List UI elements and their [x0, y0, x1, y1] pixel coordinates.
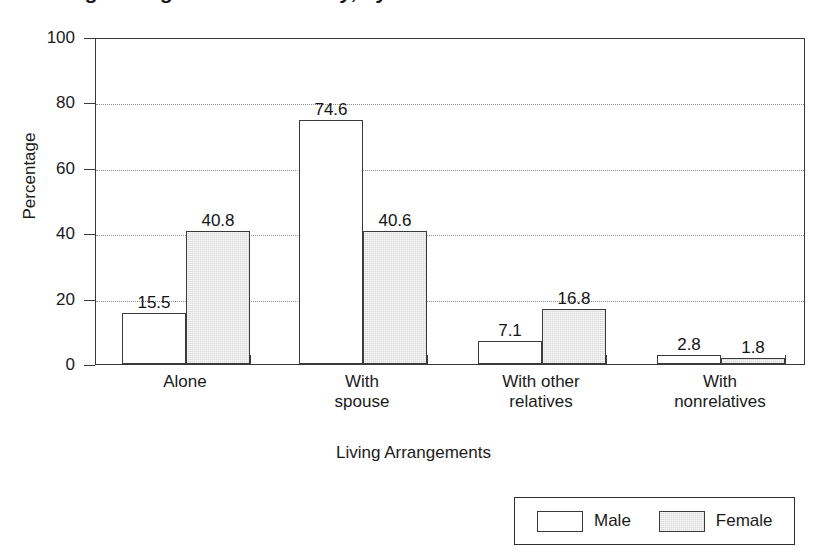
y-axis-tick-mark [84, 103, 95, 104]
y-axis-tick-mark [84, 169, 95, 170]
cropped-title-band: Living Arrangements of Elderly, by Sex [0, 0, 827, 11]
category-label-line: With [640, 372, 800, 392]
x-axis-category-label: Alone [105, 372, 265, 392]
category-label-line: relatives [461, 392, 621, 412]
bar-male: 15.5 [122, 313, 186, 364]
legend-swatch-male-icon [537, 511, 583, 532]
x-axis-title: Living Arrangements [0, 443, 827, 463]
x-axis-tick-mark [250, 355, 251, 364]
x-axis-tick-mark [606, 355, 607, 364]
category-label-line: With other [461, 372, 621, 392]
legend: Male Female [514, 497, 795, 545]
bar-value-label: 15.5 [137, 294, 170, 311]
bar-value-label: 40.6 [378, 212, 411, 229]
plot-area: 15.540.874.640.67.116.82.81.8 [95, 38, 805, 365]
bar-value-label: 74.6 [314, 101, 347, 118]
x-axis-tick-mark [478, 355, 479, 364]
x-axis-tick-mark [657, 355, 658, 364]
y-axis-tick-label: 100 [15, 29, 75, 46]
legend-label-female: Female [716, 511, 773, 531]
bar-value-label: 2.8 [677, 336, 701, 353]
bar-female: 40.6 [363, 231, 427, 364]
y-axis-tick-mark [84, 38, 95, 39]
bar-value-label: 1.8 [741, 339, 765, 356]
y-axis-tick-label: 40 [15, 225, 75, 242]
bar-value-label: 7.1 [498, 322, 522, 339]
legend-label-male: Male [594, 511, 631, 531]
x-axis-category-label: With otherrelatives [461, 372, 621, 412]
bar-male: 2.8 [657, 355, 721, 364]
y-axis-tick-label: 60 [15, 160, 75, 177]
legend-swatch-female-icon [659, 511, 705, 532]
gridline [96, 170, 804, 171]
x-axis-tick-mark [122, 355, 123, 364]
legend-item-female: Female [659, 511, 773, 532]
category-label-line: Alone [105, 372, 265, 392]
category-label-line: With [282, 372, 442, 392]
x-axis-tick-mark [785, 355, 786, 364]
y-axis-tick-mark [84, 234, 95, 235]
bar-value-label: 16.8 [557, 290, 590, 307]
y-axis-tick-mark [84, 365, 95, 366]
legend-item-male: Male [537, 511, 631, 532]
y-axis-tick-label: 0 [15, 356, 75, 373]
y-axis-tick-label: 20 [15, 291, 75, 308]
bar-female: 40.8 [186, 231, 250, 364]
x-axis-category-label: Withspouse [282, 372, 442, 412]
category-label-line: spouse [282, 392, 442, 412]
y-axis-tick-mark [84, 300, 95, 301]
plot-inner: 15.540.874.640.67.116.82.81.8 [96, 39, 804, 364]
chart-title-fragment: Living Arrangements of Elderly, by Sex [36, 0, 433, 4]
bar-male: 7.1 [478, 341, 542, 364]
gridline [96, 104, 804, 105]
y-axis-tick-label: 80 [15, 94, 75, 111]
chart-page: Living Arrangements of Elderly, by Sex P… [0, 0, 827, 559]
bar-male: 74.6 [299, 120, 363, 364]
bar-value-label: 40.8 [201, 212, 234, 229]
x-axis-tick-mark [299, 355, 300, 364]
bar-female: 1.8 [721, 358, 785, 364]
x-axis-category-label: Withnonrelatives [640, 372, 800, 412]
bar-female: 16.8 [542, 309, 606, 364]
category-label-line: nonrelatives [640, 392, 800, 412]
x-axis-tick-mark [427, 355, 428, 364]
